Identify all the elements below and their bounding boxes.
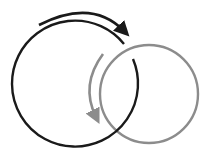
diagram-canvas — [0, 0, 209, 162]
gray-circle — [100, 45, 198, 143]
black-circle — [12, 21, 138, 147]
